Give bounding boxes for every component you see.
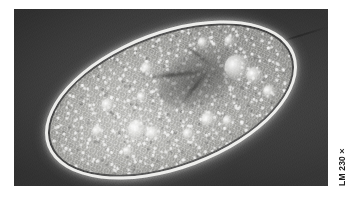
- paramecium-organism: [14, 9, 328, 186]
- photomicrograph-plate: [14, 9, 328, 186]
- pellicle-membrane: [27, 9, 315, 186]
- magnification-label: LM 230×: [336, 124, 348, 186]
- micrograph-figure: LM 230×: [0, 0, 349, 197]
